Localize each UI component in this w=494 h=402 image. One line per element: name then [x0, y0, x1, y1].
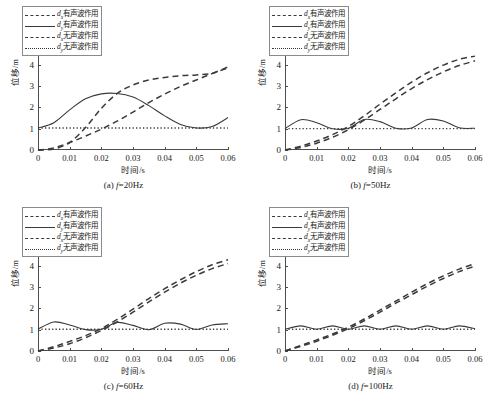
y-axis-label: 位移/m — [8, 59, 20, 86]
y-tick-label: 4 — [30, 261, 35, 270]
legend-line-sample — [272, 211, 302, 220]
subplot-caption: (c) f=60Hz — [0, 381, 247, 391]
legend: dx有声波作用dy有声波作用dx无声波作用dy无声波作用 — [22, 207, 102, 257]
y-tick-label: 1 — [277, 124, 282, 133]
legend-entry-dx-without-acoustic: dx无声波作用 — [25, 232, 98, 243]
legend-entry-dy-without-acoustic: dy无声波作用 — [25, 42, 98, 53]
y-tick-label: 3 — [30, 82, 35, 91]
y-tick-label: 2 — [277, 304, 282, 313]
subplot-c: ×10-3位移/m时间/s(c) f=60Hz012345600.010.020… — [0, 201, 247, 402]
x-tick-mark — [228, 348, 229, 351]
legend-line-sample — [272, 10, 302, 19]
x-tick-label: 0.05 — [436, 355, 451, 364]
legend-line-sample — [272, 32, 302, 41]
y-tick-label: 0 — [30, 146, 35, 155]
caption-prefix: (a) — [104, 180, 116, 190]
y-tick-label: 4 — [277, 60, 282, 69]
x-tick-label: 0 — [36, 355, 40, 364]
y-tick-label: 1 — [30, 124, 35, 133]
legend-line-sample — [25, 244, 55, 253]
x-tick-label: 0.04 — [157, 154, 172, 163]
y-tick-label: 0 — [30, 347, 35, 356]
x-tick-label: 0.02 — [341, 355, 356, 364]
legend: dx有声波作用dy有声波作用dx无声波作用dy无声波作用 — [22, 6, 102, 56]
curve-1 — [38, 67, 228, 150]
y-tick-label: 4 — [30, 60, 35, 69]
legend-line-sample — [25, 233, 55, 242]
y-tick-label: 0 — [277, 146, 282, 155]
legend-entry-dy-without-acoustic: dy无声波作用 — [272, 243, 345, 254]
x-tick-label: 0.06 — [221, 154, 236, 163]
legend-line-sample — [25, 32, 55, 41]
legend-line-sample — [272, 21, 302, 30]
legend-entry-dx-without-acoustic: dx无声波作用 — [272, 232, 345, 243]
subplot-caption: (d) f=100Hz — [247, 381, 494, 391]
legend-entry-label: dy有声波作用 — [57, 222, 98, 232]
y-tick-label: 2 — [277, 103, 282, 112]
legend-entry-dx-without-acoustic: dx无声波作用 — [272, 31, 345, 42]
legend-entry-label: dy有声波作用 — [304, 21, 345, 31]
caption-value: =50Hz — [366, 180, 391, 190]
caption-prefix: (d) — [348, 381, 361, 391]
caption-prefix: (b) — [351, 180, 364, 190]
caption-value: =20Hz — [119, 180, 144, 190]
y-tick-label: 0 — [277, 347, 282, 356]
x-tick-label: 0.03 — [373, 355, 388, 364]
x-axis-label: 时间/s — [285, 364, 475, 376]
x-tick-label: 0.06 — [221, 355, 236, 364]
legend-entry-dx-with-acoustic: dx有声波作用 — [272, 9, 345, 20]
legend-line-sample — [25, 10, 55, 19]
legend-line-sample — [25, 222, 55, 231]
legend-line-sample — [272, 244, 302, 253]
legend-line-sample — [25, 211, 55, 220]
legend-entry-label: dx无声波作用 — [304, 32, 345, 42]
x-tick-label: 0.01 — [309, 355, 324, 364]
legend-entry-label: dx有声波作用 — [304, 211, 345, 221]
x-axis-label: 时间/s — [38, 163, 228, 175]
x-tick-label: 0.05 — [189, 355, 204, 364]
x-tick-label: 0 — [36, 154, 40, 163]
caption-prefix: (c) — [104, 381, 116, 391]
legend-entry-label: dx无声波作用 — [304, 233, 345, 243]
y-axis-label: 位移/m — [8, 260, 20, 287]
x-tick-label: 0.01 — [62, 355, 77, 364]
x-tick-label: 0 — [283, 154, 287, 163]
legend-line-sample — [25, 43, 55, 52]
legend-entry-dx-with-acoustic: dx有声波作用 — [272, 210, 345, 221]
legend-entry-dx-with-acoustic: dx有声波作用 — [25, 9, 98, 20]
x-tick-label: 0.03 — [126, 355, 141, 364]
legend-entry-label: dy无声波作用 — [304, 43, 345, 53]
y-tick-label: 3 — [277, 82, 282, 91]
legend: dx有声波作用dy有声波作用dx无声波作用dy无声波作用 — [269, 6, 349, 56]
x-axis-label: 时间/s — [38, 364, 228, 376]
curve-3 — [38, 264, 228, 351]
legend-entry-dx-with-acoustic: dx有声波作用 — [25, 210, 98, 221]
x-tick-label: 0.01 — [62, 154, 77, 163]
y-tick-label: 1 — [30, 325, 35, 334]
x-tick-mark — [475, 147, 476, 150]
caption-value: =60Hz — [119, 381, 144, 391]
x-tick-label: 0.04 — [404, 355, 419, 364]
x-tick-mark — [228, 147, 229, 150]
y-axis-label: 位移/m — [255, 260, 267, 287]
x-tick-label: 0.04 — [157, 355, 172, 364]
curve-3 — [285, 61, 475, 150]
legend-entry-label: dx无声波作用 — [57, 32, 98, 42]
legend-entry-label: dy有声波作用 — [304, 222, 345, 232]
x-tick-label: 0.02 — [94, 154, 109, 163]
caption-value: =100Hz — [364, 381, 393, 391]
y-axis-label: 位移/m — [255, 59, 267, 86]
curve-1 — [285, 264, 475, 351]
x-tick-label: 0.05 — [189, 154, 204, 163]
subplot-caption: (b) f=50Hz — [247, 180, 494, 190]
y-tick-label: 2 — [30, 304, 35, 313]
legend-entry-dy-without-acoustic: dy无声波作用 — [25, 243, 98, 254]
legend-line-sample — [272, 233, 302, 242]
subplot-b: ×10-3位移/m时间/s(b) f=50Hz012345600.010.020… — [247, 0, 494, 201]
curve-3 — [285, 266, 475, 351]
legend-entry-dy-with-acoustic: dy有声波作用 — [272, 20, 345, 31]
subplot-d: ×10-3位移/m时间/s(d) f=100Hz012345600.010.02… — [247, 201, 494, 402]
x-tick-label: 0.05 — [436, 154, 451, 163]
figure-2x2-displacement-plots: ×10-3位移/m时间/s(a) f=20Hz012345600.010.020… — [0, 0, 494, 402]
legend: dx有声波作用dy有声波作用dx无声波作用dy无声波作用 — [269, 207, 349, 257]
